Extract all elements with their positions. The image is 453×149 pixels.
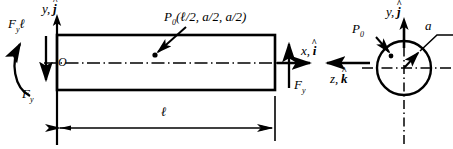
origin-label: O xyxy=(58,56,67,68)
section-y-axis-arrow xyxy=(399,17,408,48)
x-axis-label-right: x, i xyxy=(301,44,316,57)
section-radius-label: a xyxy=(425,19,432,32)
point-load-leader-beam xyxy=(152,27,186,58)
point-load-label-beam: P0(ℓ/2, a/2, a/2) xyxy=(164,10,246,27)
section-point-load-label: P0 xyxy=(352,22,364,39)
section-y-axis-label: y, j xyxy=(386,5,401,18)
force-fy-label-right: Fy xyxy=(294,78,306,95)
force-fy-label-left: Fy xyxy=(22,87,34,104)
length-dimension-label: ℓ xyxy=(161,105,166,118)
y-axis-label-left: y, j xyxy=(42,2,57,15)
section-radius-arrow xyxy=(404,53,418,68)
section-point-load-leader xyxy=(376,37,393,58)
length-dimension-line xyxy=(57,96,275,141)
z-axis-label: z, k xyxy=(330,72,347,85)
moment-label-left: Fyℓ xyxy=(8,17,25,34)
radius-label-leader xyxy=(420,35,453,51)
engineering-diagram: Fyℓ y, j O Fy P0(ℓ/2, a/2, a/2) x, i Fy … xyxy=(0,0,453,149)
